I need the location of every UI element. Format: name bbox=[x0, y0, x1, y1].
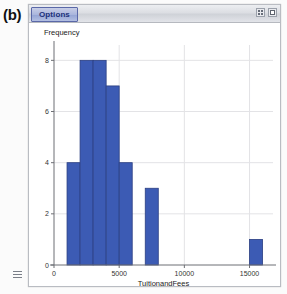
y-axis-label: Frequency bbox=[44, 28, 80, 37]
restore-icon bbox=[258, 10, 264, 16]
grip-icon[interactable] bbox=[13, 271, 22, 278]
screenshot-root: (b) Options 02468050001000015000Frequenc… bbox=[0, 0, 287, 294]
x-tick-label: 10000 bbox=[175, 270, 195, 277]
plot-area: 02468050001000015000FrequencyTuitionandF… bbox=[29, 23, 280, 286]
y-tick-label: 0 bbox=[45, 262, 49, 269]
options-button[interactable]: Options bbox=[31, 7, 78, 22]
y-tick-label: 4 bbox=[45, 159, 49, 166]
window-titlebar: Options bbox=[29, 5, 280, 23]
restore-button[interactable] bbox=[256, 8, 265, 17]
histogram-bar bbox=[250, 239, 263, 265]
y-tick-label: 8 bbox=[45, 57, 49, 64]
window-controls bbox=[256, 8, 277, 17]
figure-label: (b) bbox=[3, 6, 21, 23]
plot-window: Options 02468050001000015000FrequencyTui… bbox=[28, 4, 281, 287]
x-axis-label: TuitionandFees bbox=[138, 279, 190, 286]
histogram-bar bbox=[80, 60, 93, 265]
x-tick-label: 15000 bbox=[240, 270, 260, 277]
histogram-bar bbox=[67, 163, 80, 265]
histogram-bar bbox=[93, 60, 106, 265]
histogram-bar bbox=[145, 188, 158, 265]
close-icon bbox=[270, 10, 275, 15]
histogram-bar bbox=[119, 163, 132, 265]
x-tick-label: 5000 bbox=[111, 270, 127, 277]
x-tick-label: 0 bbox=[52, 270, 56, 277]
histogram-bar bbox=[106, 86, 119, 265]
y-tick-label: 6 bbox=[45, 108, 49, 115]
y-tick-label: 2 bbox=[45, 210, 49, 217]
close-button[interactable] bbox=[268, 8, 277, 17]
histogram-chart: 02468050001000015000FrequencyTuitionandF… bbox=[29, 23, 280, 286]
